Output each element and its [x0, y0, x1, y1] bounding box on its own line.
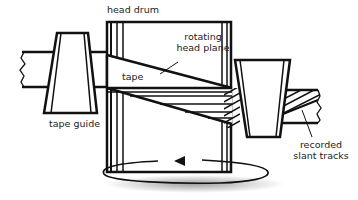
label-slant-tracks: slant tracks: [286, 150, 356, 161]
tape-guide-right-icon: [235, 60, 290, 137]
label-head-plane: head plane: [168, 42, 238, 53]
tape-guide-left-icon: [44, 33, 97, 113]
label-tape: tape: [122, 71, 143, 82]
label-rotating-head-plane: rotating head plane: [168, 31, 238, 53]
label-recorded: recorded: [286, 139, 356, 150]
label-head-drum: head drum: [107, 4, 159, 15]
label-recorded-slant-tracks: recorded slant tracks: [286, 139, 356, 161]
label-rotating: rotating: [168, 31, 238, 42]
helical-scan-diagram: [0, 0, 358, 200]
label-tape-guide: tape guide: [49, 118, 100, 129]
